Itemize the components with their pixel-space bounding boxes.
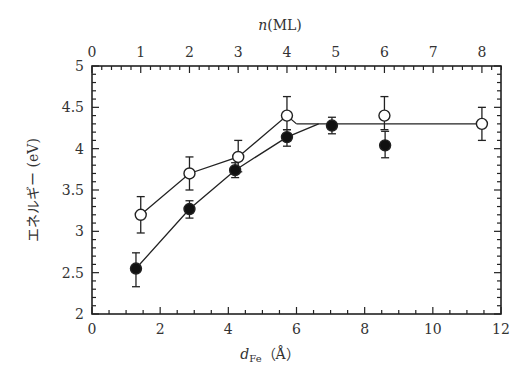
top-tick-label: 2 [185,44,194,60]
y-tick-label: 4 [75,141,84,157]
top-tick-label: 0 [88,44,97,60]
filled-data-point [130,263,141,274]
guide-line-series-1 [141,116,297,215]
open-data-point [379,110,390,121]
y-tick-label: 5 [75,58,84,74]
open-data-point [476,118,487,129]
top-tick-label: 7 [429,44,438,60]
chart: 02468101201234567822.533.544.55 n(ML) dF… [0,0,528,381]
top-axis-title: n(ML) [258,17,302,33]
x-tick-label: 4 [224,321,233,337]
top-tick-label: 1 [136,44,145,60]
top-tick-label: 8 [477,44,486,60]
filled-data-point [380,140,391,151]
y-tick-label: 3 [75,223,84,239]
filled-data-point [326,120,337,131]
x-tick-label: 8 [360,321,369,337]
top-axis-var: n [258,17,267,33]
open-data-point [233,151,244,162]
x-axis-var: d [240,346,249,362]
filled-data-point [184,204,195,215]
filled-data-point [281,132,292,143]
x-tick-label: 12 [492,321,510,337]
x-axis-title: dFe（Å） [240,345,299,364]
y-tick-label: 2 [75,306,84,322]
x-tick-label: 6 [292,321,301,337]
x-tick-label: 2 [156,321,165,337]
y-tick-label: 3.5 [62,182,84,198]
plot-frame [92,66,501,314]
top-tick-label: 3 [234,44,243,60]
y-axis-title: エネルギー (eV) [25,138,41,242]
open-data-point [281,110,292,121]
y-tick-label: 2.5 [62,265,84,281]
x-tick-label: 0 [88,321,97,337]
x-axis-sub: Fe [249,353,261,364]
x-tick-label: 10 [424,321,442,337]
top-axis-unit: (ML) [267,17,302,33]
open-data-point [184,168,195,179]
top-tick-label: 5 [331,44,340,60]
y-tick-label: 4.5 [62,99,84,115]
top-tick-label: 6 [380,44,389,60]
filled-data-point [230,165,241,176]
top-tick-label: 4 [282,44,291,60]
open-data-point [135,209,146,220]
x-axis-unit: （Å） [262,345,300,362]
